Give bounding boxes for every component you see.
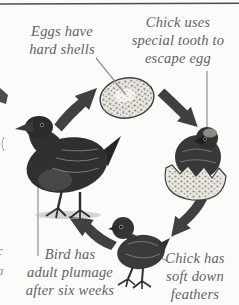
label-line: soft down: [148, 267, 239, 285]
label-line: Bird has: [18, 245, 122, 263]
label-line: feathers: [148, 285, 239, 303]
page-edge-text-fragment: a: [0, 263, 4, 279]
label-line: Chick has: [148, 249, 239, 267]
arrow-adult-to-egg-icon: [54, 88, 97, 131]
label-soft-down: Chick has soft down feathers: [148, 249, 239, 303]
label-line: escape egg: [126, 49, 230, 67]
label-eggs-hard-shells: Eggs have hard shells: [14, 22, 110, 58]
page-edge-fragments: [0, 88, 8, 151]
label-adult-plumage: Bird has adult plumage after six weeks: [18, 245, 122, 299]
label-line: adult plumage: [18, 263, 122, 281]
page-top-rule: [0, 3, 239, 4]
label-line: after six weeks: [18, 281, 122, 299]
label-line: special tooth to: [126, 31, 230, 49]
label-line: hard shells: [14, 40, 110, 58]
arrow-egg-to-hatch-icon: [158, 88, 198, 127]
egg-illustration: [97, 74, 156, 121]
hatching-chick-illustration: [165, 127, 226, 200]
adult-bird-illustration: [15, 116, 121, 219]
life-cycle-diagram: Eggs have hard shells Chick uses special…: [0, 0, 239, 305]
label-line: Chick uses: [126, 13, 230, 31]
page-edge-text-fragment: c: [0, 243, 3, 259]
label-line: Eggs have: [14, 22, 110, 40]
label-special-tooth: Chick uses special tooth to escape egg: [126, 13, 230, 67]
